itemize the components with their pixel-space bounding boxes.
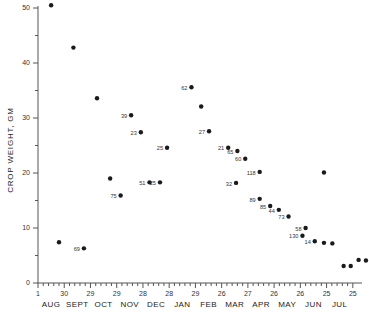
- x-tick-label: 25: [323, 290, 331, 297]
- data-point-label: 25: [150, 180, 156, 186]
- x-month-label: AUG: [42, 300, 61, 309]
- data-point: [207, 129, 211, 133]
- data-point-label: 14: [305, 239, 311, 245]
- data-point: [108, 176, 112, 180]
- data-point: [341, 264, 345, 268]
- data-point: [257, 197, 261, 201]
- data-point-label: 51: [139, 180, 145, 186]
- data-point-label: 118: [247, 170, 256, 176]
- data-point-label: 23: [131, 130, 137, 136]
- x-tick-label: 27: [244, 290, 252, 297]
- data-point: [129, 113, 133, 117]
- data-point: [322, 241, 326, 245]
- x-tick-label: 29: [113, 290, 121, 297]
- data-point: [139, 130, 143, 134]
- x-tick-label: 1: [36, 290, 40, 297]
- x-tick-label: 25: [349, 290, 357, 297]
- x-month-label: OCT: [95, 300, 113, 309]
- data-point-label: 25: [157, 145, 163, 151]
- x-month-label: FEB: [200, 300, 217, 309]
- x-axis: 1302929282829262726262525AUGSEPTOCTNOVDE…: [36, 283, 362, 309]
- x-tick-label: 30: [60, 290, 68, 297]
- x-tick-label: 29: [192, 290, 200, 297]
- data-point: [257, 170, 261, 174]
- data-point: [189, 85, 193, 89]
- data-point: [158, 180, 162, 184]
- data-point: [364, 258, 368, 262]
- data-point-label: 44: [269, 208, 275, 214]
- data-point-label: 65: [227, 149, 233, 155]
- data-point-label: 21: [218, 145, 224, 151]
- data-point: [82, 246, 86, 250]
- data-point: [49, 3, 53, 7]
- x-tick-label: 28: [165, 290, 173, 297]
- data-point: [322, 170, 326, 174]
- x-month-label: MAY: [278, 300, 296, 309]
- data-point-label: 60: [235, 156, 241, 162]
- y-tick-label: 50: [22, 4, 30, 11]
- y-axis-title: CROP WEIGHT, GM: [6, 107, 15, 193]
- x-month-label: APR: [252, 300, 270, 309]
- y-axis: 01020304050: [22, 4, 38, 286]
- x-month-label: MAR: [225, 300, 244, 309]
- data-point-label: 69: [74, 246, 80, 252]
- data-point-label: 32: [226, 181, 232, 187]
- data-points: 6975392351252562272165603211889854473581…: [49, 3, 368, 268]
- y-tick-label: 10: [22, 224, 30, 231]
- data-point: [235, 149, 239, 153]
- data-point: [71, 45, 75, 49]
- chart-svg: 01020304050 1302929282829262726262525AUG…: [0, 0, 369, 322]
- y-tick-label: 0: [26, 279, 30, 286]
- data-point-label: 73: [278, 214, 284, 220]
- data-point: [199, 104, 203, 108]
- data-point: [349, 264, 353, 268]
- data-point: [234, 181, 238, 185]
- data-point: [165, 146, 169, 150]
- x-tick-label: 29: [87, 290, 95, 297]
- data-point: [118, 193, 122, 197]
- data-point-label: 130: [289, 233, 298, 239]
- data-point: [303, 226, 307, 230]
- data-point-label: 39: [121, 113, 127, 119]
- y-tick-label: 40: [22, 59, 30, 66]
- x-tick-label: 26: [270, 290, 278, 297]
- data-point: [286, 214, 290, 218]
- data-point-label: 58: [295, 226, 301, 232]
- data-point-label: 75: [110, 193, 116, 199]
- y-tick-label: 20: [22, 169, 30, 176]
- scatter-chart: 01020304050 1302929282829262726262525AUG…: [0, 0, 369, 322]
- x-month-label: DEC: [147, 300, 165, 309]
- data-point-label: 62: [181, 85, 187, 91]
- x-tick-label: 26: [218, 290, 226, 297]
- x-month-label: NOV: [121, 300, 140, 309]
- x-month-label: JUL: [332, 300, 348, 309]
- x-tick-label: 26: [296, 290, 304, 297]
- y-tick-label: 30: [22, 114, 30, 121]
- data-point: [313, 239, 317, 243]
- x-month-label: SEPT: [66, 300, 89, 309]
- data-point-label: 27: [199, 129, 205, 135]
- data-point: [330, 241, 334, 245]
- data-point: [277, 208, 281, 212]
- data-point-label: 85: [260, 204, 266, 210]
- x-month-label: JUN: [305, 300, 322, 309]
- data-point: [300, 234, 304, 238]
- data-point: [356, 258, 360, 262]
- data-point: [95, 96, 99, 100]
- x-tick-label: 28: [139, 290, 147, 297]
- x-month-label: JAN: [174, 300, 190, 309]
- data-point-label: 89: [249, 197, 255, 203]
- data-point: [57, 240, 61, 244]
- data-point: [243, 157, 247, 161]
